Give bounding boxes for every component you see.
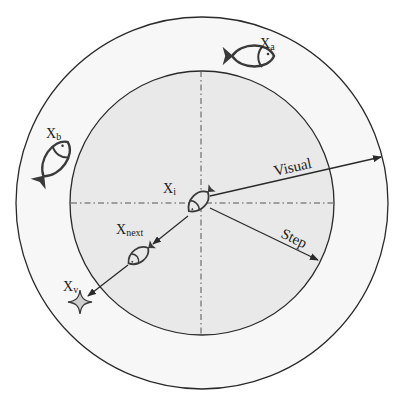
fish-visual-step-diagram: Visual Step Xa Xb Xi Xnext Xv bbox=[0, 0, 397, 402]
